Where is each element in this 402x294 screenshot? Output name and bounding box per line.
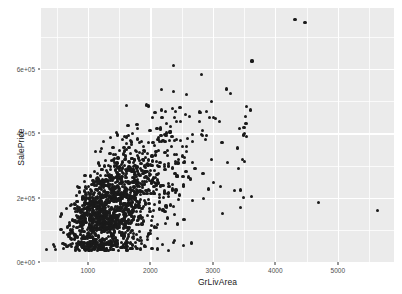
data-point [78, 249, 81, 252]
data-point [92, 192, 95, 195]
data-point [239, 188, 242, 191]
data-point [95, 221, 98, 224]
data-point [210, 158, 213, 161]
data-point [167, 191, 170, 194]
data-point [76, 200, 79, 203]
data-point [130, 203, 133, 206]
data-point [99, 201, 102, 204]
data-point [140, 222, 143, 225]
data-point [82, 237, 85, 240]
data-point [126, 245, 129, 248]
data-point [156, 223, 159, 226]
data-point [201, 129, 204, 132]
data-point [100, 231, 103, 234]
data-point [136, 127, 139, 130]
data-point [144, 156, 147, 159]
data-point [84, 248, 87, 251]
data-point [147, 202, 150, 205]
data-point [135, 210, 138, 213]
data-point [143, 244, 146, 247]
data-point [150, 247, 153, 250]
data-point [170, 145, 173, 148]
data-point [105, 198, 108, 201]
data-point [181, 175, 184, 178]
y-tick-mark [38, 133, 41, 134]
data-point [76, 235, 79, 238]
data-point [189, 177, 192, 180]
data-point [162, 196, 165, 199]
data-point [113, 197, 116, 200]
data-point [116, 133, 119, 136]
data-point [129, 241, 132, 244]
data-point [117, 249, 120, 252]
data-point [142, 145, 145, 148]
data-point [129, 139, 132, 142]
data-point [204, 138, 207, 141]
data-point [104, 184, 107, 187]
data-point [114, 153, 117, 156]
data-point [139, 247, 142, 250]
data-point [250, 195, 253, 198]
data-point [153, 111, 156, 114]
data-point [176, 222, 179, 225]
data-point [236, 146, 239, 149]
data-point [146, 152, 149, 155]
data-point [169, 125, 172, 128]
data-point [70, 237, 73, 240]
data-point [237, 167, 240, 170]
data-point [243, 160, 246, 163]
data-point [100, 181, 103, 184]
data-point [135, 175, 138, 178]
data-point [181, 145, 184, 148]
data-point [163, 163, 166, 166]
data-point [66, 245, 69, 248]
data-point [293, 18, 296, 21]
data-point [154, 153, 157, 156]
data-point [78, 190, 81, 193]
data-point [191, 199, 194, 202]
x-tick-label: 1000 [81, 267, 95, 274]
data-point [150, 219, 153, 222]
data-point [111, 237, 114, 240]
data-point [153, 203, 156, 206]
data-point [166, 154, 169, 157]
data-point [112, 248, 115, 251]
data-point [155, 127, 158, 130]
data-point [104, 249, 107, 252]
data-point [110, 159, 113, 162]
data-point [165, 122, 168, 125]
data-point [98, 187, 101, 190]
data-point [244, 122, 247, 125]
data-point [225, 87, 228, 90]
data-point [99, 150, 102, 153]
data-point [221, 212, 224, 215]
data-point [159, 161, 162, 164]
data-point [141, 186, 144, 189]
data-point [173, 139, 176, 142]
data-point [173, 213, 176, 216]
data-point [45, 248, 48, 251]
data-point [212, 116, 215, 119]
data-point [125, 104, 128, 107]
data-point [119, 178, 122, 181]
x-tick-mark [275, 262, 276, 265]
data-point [114, 243, 117, 246]
data-point [74, 210, 77, 213]
data-point [140, 239, 143, 242]
data-point [121, 138, 124, 141]
data-point [188, 115, 191, 118]
data-point [153, 169, 156, 172]
data-point [164, 110, 167, 113]
data-point [118, 182, 121, 185]
data-point [202, 197, 205, 200]
data-point [96, 172, 99, 175]
data-point [147, 141, 150, 144]
data-point [135, 123, 138, 126]
data-point [220, 141, 223, 144]
data-point [169, 130, 172, 133]
data-point [93, 242, 96, 245]
data-point [138, 230, 141, 233]
data-point [182, 161, 185, 164]
data-point [182, 218, 185, 221]
data-point [132, 181, 135, 184]
